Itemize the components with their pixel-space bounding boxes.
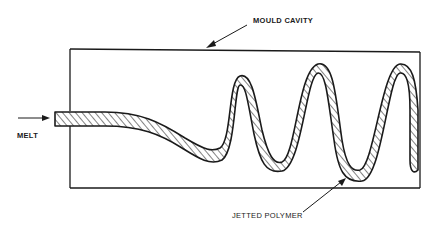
jetted-polymer-arrow [303,178,346,212]
diagram-canvas [0,0,437,231]
mould-jetting-diagram: MOULD CAVITY MELT JETTED POLYMER [0,0,437,231]
mould-cavity-label: MOULD CAVITY [253,16,313,25]
jetted-polymer-strip [55,64,418,181]
jetted-polymer-label: JETTED POLYMER [232,211,303,220]
mould-cavity-arrow [206,25,247,48]
melt-label: MELT [17,131,38,140]
melt-flow-arrow [18,115,50,121]
